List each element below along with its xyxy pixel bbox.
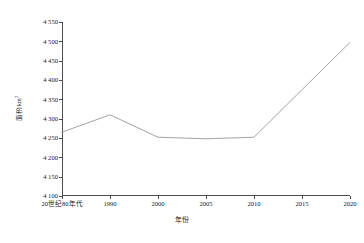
y-axis-tick-label: 4 450 [20,57,58,64]
x-axis-tick-label: 2015 [295,199,308,208]
plot-area [62,22,350,196]
x-axis-tick-label: 2020 [343,199,356,208]
y-axis-tick-label: 4 400 [20,76,58,83]
x-axis-tick-labels: 20世纪80年代199020002005201020152020 [0,199,364,213]
x-axis-tick-label: 1990 [103,199,116,208]
y-axis-tick-label: 4 150 [20,173,58,180]
series-polyline [62,42,350,138]
series-line [62,22,350,196]
y-axis-tick-label: 4 550 [20,18,58,25]
x-axis-tick-label: 2000 [151,199,164,208]
x-axis-tick-label: 20世纪80年代 [41,199,82,208]
y-axis-tick-label: 4 250 [20,134,58,141]
y-axis-tick-label: 4 200 [20,154,58,161]
x-axis-tick-label: 2005 [199,199,212,208]
y-axis-tick-label: 4 300 [20,115,58,122]
x-axis-title: 年份 [0,214,364,224]
y-axis-tick-label: 4 350 [20,96,58,103]
y-axis-title-superscript: 2 [14,95,19,97]
x-axis-tick-label: 2010 [247,199,260,208]
line-chart-figure: 面积/km2 4 5504 5004 4504 4004 3504 3004 2… [0,0,364,243]
y-axis-tick-label: 4 500 [20,38,58,45]
